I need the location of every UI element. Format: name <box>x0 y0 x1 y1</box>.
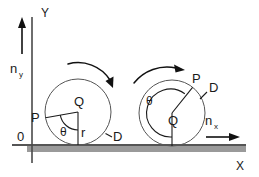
figure-canvas: Y X 0 n y n x <box>0 0 259 177</box>
unit-vector-ny: n y <box>10 17 26 79</box>
ny-arrow-head-icon <box>18 17 26 28</box>
ny-label-base: n <box>10 61 17 76</box>
rotation-arrow-left <box>68 63 114 88</box>
disk-left-group: Q P θ r D <box>31 63 122 145</box>
disk-right-point-label: P <box>192 71 201 86</box>
nx-label-base: n <box>205 113 212 128</box>
ground-fill-bar <box>27 146 246 152</box>
disk-left-center-label: Q <box>74 94 84 109</box>
disk-right-group: Q P θ D <box>134 65 218 147</box>
rotation-arrow-left-arc <box>68 63 110 80</box>
disk-right-qp-line <box>172 87 193 113</box>
disk-right-d-leader <box>200 92 207 99</box>
rotation-arrow-right-head-icon <box>174 65 185 73</box>
ny-label-subscript: y <box>19 70 23 79</box>
rotation-arrow-right-arc <box>134 67 176 83</box>
disk-left-point-label: P <box>31 110 40 125</box>
disk-left-d-leader <box>106 134 113 138</box>
y-axis-label: Y <box>41 6 49 20</box>
disk-left-qp-line <box>46 112 79 118</box>
ground-surface <box>12 145 246 152</box>
nx-arrow-head-icon <box>229 133 240 141</box>
nx-label-subscript: x <box>214 122 218 131</box>
disk-right-center-label: Q <box>168 113 178 128</box>
origin-label: 0 <box>17 129 24 144</box>
rolling-disk-figure: Y X 0 n y n x <box>0 0 259 177</box>
disk-left-radius-label: r <box>81 125 86 140</box>
unit-vector-nx: n x <box>205 113 240 141</box>
disk-left-disk-label: D <box>113 129 122 144</box>
disk-left-theta-label: θ <box>60 125 67 139</box>
x-axis-label: X <box>236 159 244 173</box>
disk-right-theta-label: θ <box>146 94 153 108</box>
disk-right-disk-label: D <box>209 80 218 95</box>
